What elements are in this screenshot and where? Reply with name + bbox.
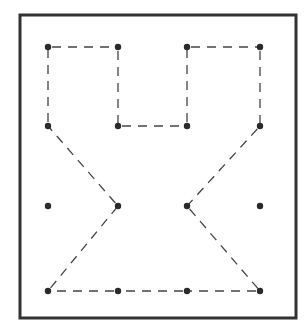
grid-dot [45,123,51,129]
dashed-segment [187,126,260,206]
dashed-segment [48,206,118,291]
figure-frame [20,15,296,318]
grid-dot [184,288,190,294]
grid-dot [184,203,190,209]
grid-dot [115,44,121,50]
grid-dot [184,44,190,50]
dashed-segment [48,126,118,206]
grid-dot [45,288,51,294]
grid-dot [257,44,263,50]
dashed-path [48,47,260,291]
grid-dot [257,123,263,129]
grid-dot [184,123,190,129]
grid-dot [45,203,51,209]
dot-grid-figure [0,0,306,330]
grid-dot [257,203,263,209]
dot-grid [45,44,263,294]
grid-dot [257,288,263,294]
grid-dot [115,123,121,129]
dashed-segment [187,206,260,291]
grid-dot [115,288,121,294]
grid-dot [115,203,121,209]
grid-dot [45,44,51,50]
